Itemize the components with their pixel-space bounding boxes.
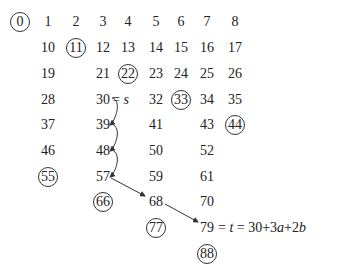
arrow-57-to-68 — [111, 178, 145, 196]
t-equals-2: = — [237, 220, 245, 235]
t-b: b — [299, 220, 306, 235]
t-formula: = t = 30+3a+2b — [218, 220, 306, 236]
t-const: 30 — [248, 220, 262, 235]
t-variable: t — [229, 220, 233, 235]
s-label: = s — [112, 92, 129, 108]
s-variable: s — [123, 92, 128, 107]
t-plus-1: + — [262, 220, 270, 235]
t-coef-b: 2 — [292, 220, 299, 235]
t-plus-2: + — [284, 220, 292, 235]
arrow-39-to-48 — [110, 124, 117, 151]
arrow-68-to-79 — [165, 204, 198, 222]
arrow-48-to-57 — [110, 150, 117, 177]
s-equals: = — [112, 92, 120, 107]
t-equals-1: = — [218, 220, 226, 235]
